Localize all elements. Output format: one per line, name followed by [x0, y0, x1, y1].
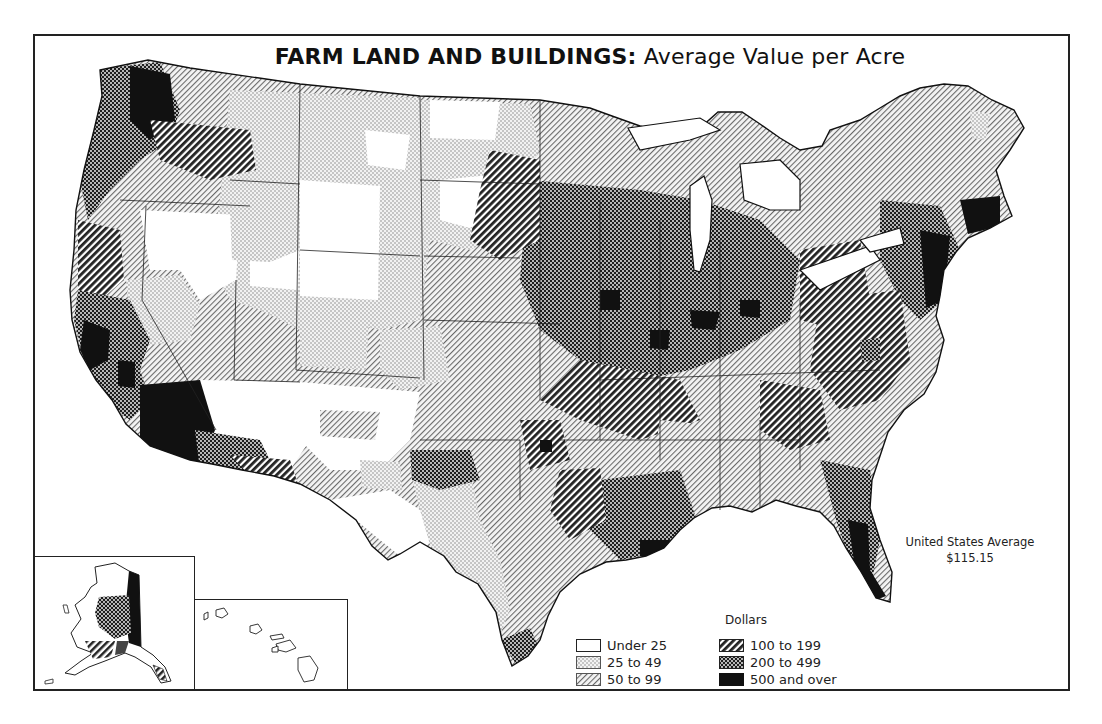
legend-title: Dollars: [716, 613, 776, 627]
bold-diagonal-swatch-icon: [719, 639, 744, 652]
us-average-note: United States Average $115.15: [905, 534, 1035, 566]
legend-item-100to199: 100 to 199: [719, 638, 821, 652]
us-average-value: $115.15: [905, 550, 1035, 566]
legend-item-under25: Under 25: [576, 638, 667, 652]
solid-black-swatch-icon: [719, 673, 744, 686]
title-rest: Average Value per Acre: [637, 44, 906, 69]
map-regions: [60, 50, 1040, 680]
legend-label: 500 and over: [750, 672, 837, 687]
dark-checker-swatch-icon: [719, 656, 744, 669]
alaska-inset: [35, 556, 195, 691]
hawaii-inset: [194, 599, 348, 691]
legend-label: 200 to 499: [750, 655, 821, 670]
legend-item-500plus: 500 and over: [719, 672, 837, 686]
blank-swatch-icon: [576, 639, 601, 652]
title-bold: FARM LAND AND BUILDINGS:: [275, 44, 637, 69]
fine-dots-swatch-icon: [576, 656, 601, 669]
alaska-map: [35, 557, 195, 692]
legend-label: 50 to 99: [607, 672, 661, 687]
us-average-label: United States Average: [905, 534, 1035, 550]
legend: Dollars Under 25 25 to 49 50 to 99 100 t…: [574, 613, 874, 689]
legend-item-50to99: 50 to 99: [576, 672, 661, 686]
legend-item-25to49: 25 to 49: [576, 655, 661, 669]
legend-label: 100 to 199: [750, 638, 821, 653]
legend-item-200to499: 200 to 499: [719, 655, 821, 669]
map-title: FARM LAND AND BUILDINGS: Average Value p…: [270, 44, 910, 69]
legend-label: 25 to 49: [607, 655, 661, 670]
fine-diagonal-swatch-icon: [576, 673, 601, 686]
legend-label: Under 25: [607, 638, 667, 653]
hawaii-map: [194, 600, 348, 692]
